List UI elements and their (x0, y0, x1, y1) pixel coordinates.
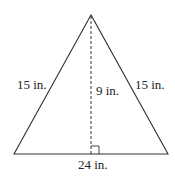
triangle-diagram: 15 in. 15 in. 9 in. 24 in. (0, 0, 175, 176)
right-side-label: 15 in. (135, 77, 165, 92)
base-label: 24 in. (78, 157, 108, 172)
left-side-label: 15 in. (17, 77, 47, 92)
right-angle-marker (91, 146, 99, 154)
height-label: 9 in. (96, 83, 119, 98)
